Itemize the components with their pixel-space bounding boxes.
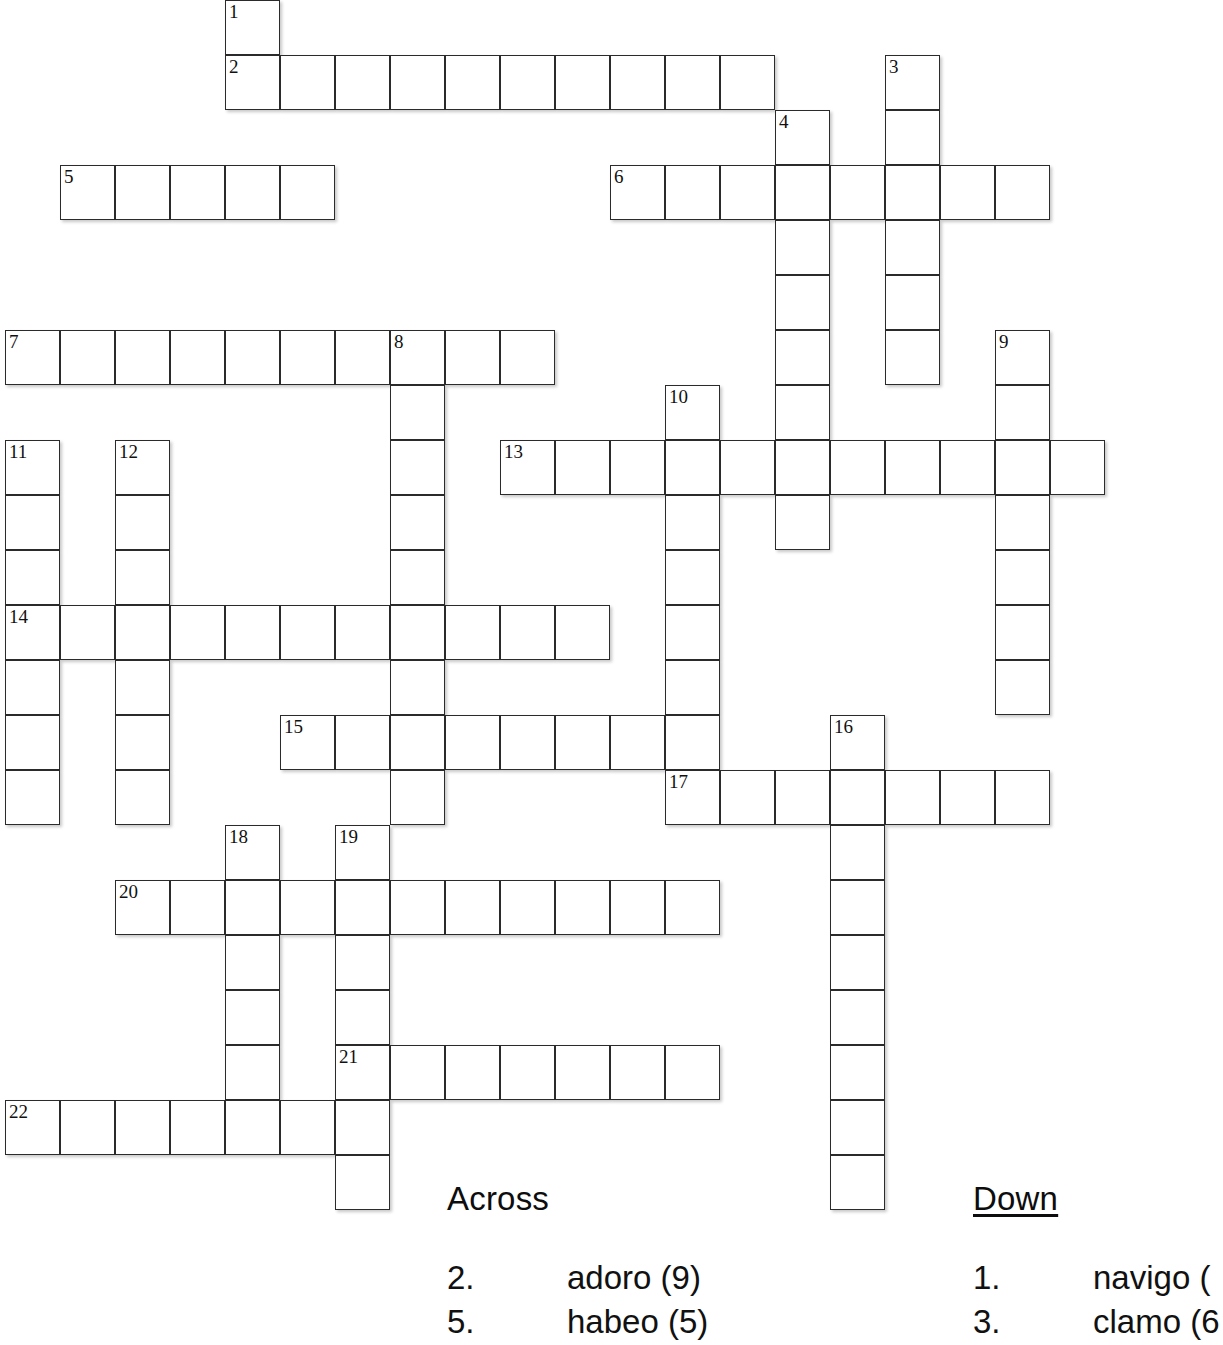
crossword-cell[interactable] — [115, 165, 170, 220]
crossword-cell[interactable] — [995, 385, 1050, 440]
crossword-cell[interactable] — [390, 880, 445, 935]
crossword-cell[interactable]: 3 — [885, 55, 940, 110]
crossword-cell[interactable] — [995, 440, 1050, 495]
crossword-cell[interactable] — [445, 715, 500, 770]
crossword-cell[interactable] — [225, 935, 280, 990]
crossword-cell[interactable] — [390, 495, 445, 550]
crossword-cell[interactable] — [775, 330, 830, 385]
crossword-cell[interactable]: 8 — [390, 330, 445, 385]
crossword-cell[interactable]: 12 — [115, 440, 170, 495]
crossword-cell[interactable] — [390, 605, 445, 660]
crossword-cell[interactable] — [500, 880, 555, 935]
crossword-cell[interactable] — [170, 1100, 225, 1155]
crossword-cell[interactable] — [830, 1100, 885, 1155]
clue-item[interactable]: 2.adoro (9) — [447, 1256, 917, 1300]
crossword-cell[interactable] — [995, 770, 1050, 825]
crossword-cell[interactable] — [775, 770, 830, 825]
crossword-cell[interactable] — [885, 275, 940, 330]
crossword-cell[interactable] — [390, 715, 445, 770]
crossword-cell[interactable] — [940, 165, 995, 220]
crossword-cell[interactable] — [335, 935, 390, 990]
crossword-cell[interactable] — [390, 55, 445, 110]
crossword-cell[interactable] — [775, 220, 830, 275]
crossword-cell[interactable]: 14 — [5, 605, 60, 660]
crossword-cell[interactable] — [775, 385, 830, 440]
crossword-cell[interactable] — [995, 165, 1050, 220]
crossword-cell[interactable] — [610, 55, 665, 110]
crossword-cell[interactable] — [225, 165, 280, 220]
crossword-cell[interactable]: 4 — [775, 110, 830, 165]
crossword-cell[interactable]: 9 — [995, 330, 1050, 385]
crossword-cell[interactable] — [885, 110, 940, 165]
crossword-cell[interactable] — [445, 55, 500, 110]
crossword-cell[interactable] — [830, 825, 885, 880]
crossword-cell[interactable] — [225, 605, 280, 660]
crossword-cell[interactable] — [225, 1100, 280, 1155]
crossword-cell[interactable] — [170, 605, 225, 660]
clue-item[interactable]: 1.navigo ( — [973, 1256, 1223, 1300]
crossword-cell[interactable] — [335, 1100, 390, 1155]
crossword-cell[interactable]: 20 — [115, 880, 170, 935]
crossword-cell[interactable]: 6 — [610, 165, 665, 220]
crossword-cell[interactable] — [720, 55, 775, 110]
crossword-cell[interactable] — [555, 715, 610, 770]
crossword-cell[interactable] — [5, 660, 60, 715]
crossword-cell[interactable] — [390, 1045, 445, 1100]
crossword-cell[interactable] — [610, 715, 665, 770]
crossword-cell[interactable]: 11 — [5, 440, 60, 495]
crossword-cell[interactable] — [665, 495, 720, 550]
crossword-cell[interactable] — [830, 1045, 885, 1100]
crossword-cell[interactable] — [885, 165, 940, 220]
crossword-cell[interactable] — [775, 495, 830, 550]
crossword-cell[interactable] — [60, 330, 115, 385]
crossword-cell[interactable] — [665, 1045, 720, 1100]
crossword-cell[interactable] — [665, 715, 720, 770]
crossword-cell[interactable] — [830, 880, 885, 935]
crossword-cell[interactable] — [115, 495, 170, 550]
crossword-cell[interactable] — [610, 880, 665, 935]
crossword-cell[interactable] — [1050, 440, 1105, 495]
crossword-cell[interactable] — [115, 550, 170, 605]
crossword-cell[interactable] — [5, 715, 60, 770]
crossword-cell[interactable]: 21 — [335, 1045, 390, 1100]
crossword-cell[interactable] — [335, 990, 390, 1045]
crossword-cell[interactable] — [500, 605, 555, 660]
crossword-cell[interactable] — [115, 660, 170, 715]
crossword-cell[interactable] — [885, 220, 940, 275]
crossword-cell[interactable]: 1 — [225, 0, 280, 55]
crossword-grid[interactable]: 12345678910111213141516171819202122 — [0, 0, 1172, 1250]
crossword-cell[interactable] — [280, 880, 335, 935]
crossword-cell[interactable] — [280, 330, 335, 385]
crossword-cell[interactable] — [225, 1045, 280, 1100]
crossword-cell[interactable] — [445, 330, 500, 385]
crossword-cell[interactable] — [995, 550, 1050, 605]
crossword-cell[interactable] — [115, 715, 170, 770]
crossword-cell[interactable] — [60, 605, 115, 660]
crossword-cell[interactable] — [555, 55, 610, 110]
crossword-cell[interactable]: 5 — [60, 165, 115, 220]
crossword-cell[interactable] — [170, 330, 225, 385]
crossword-cell[interactable] — [170, 880, 225, 935]
crossword-cell[interactable] — [170, 165, 225, 220]
crossword-cell[interactable] — [830, 990, 885, 1045]
crossword-cell[interactable]: 18 — [225, 825, 280, 880]
crossword-cell[interactable] — [830, 770, 885, 825]
crossword-cell[interactable] — [775, 165, 830, 220]
crossword-cell[interactable] — [500, 330, 555, 385]
crossword-cell[interactable] — [335, 55, 390, 110]
crossword-cell[interactable] — [500, 1045, 555, 1100]
crossword-cell[interactable] — [995, 605, 1050, 660]
crossword-cell[interactable] — [610, 1045, 665, 1100]
crossword-cell[interactable] — [665, 440, 720, 495]
crossword-cell[interactable] — [5, 550, 60, 605]
crossword-cell[interactable] — [390, 440, 445, 495]
crossword-cell[interactable] — [115, 605, 170, 660]
crossword-cell[interactable] — [720, 165, 775, 220]
crossword-cell[interactable] — [500, 55, 555, 110]
crossword-cell[interactable] — [940, 440, 995, 495]
crossword-cell[interactable]: 19 — [335, 825, 390, 880]
crossword-cell[interactable] — [775, 440, 830, 495]
crossword-cell[interactable] — [830, 165, 885, 220]
crossword-cell[interactable]: 2 — [225, 55, 280, 110]
crossword-cell[interactable] — [5, 770, 60, 825]
